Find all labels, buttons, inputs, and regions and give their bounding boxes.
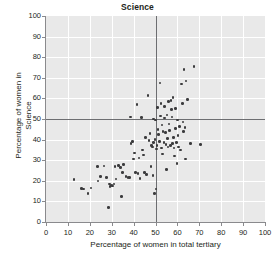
data-point bbox=[165, 168, 168, 171]
data-point bbox=[163, 105, 166, 108]
data-point bbox=[160, 147, 163, 150]
data-point bbox=[174, 107, 177, 110]
data-point bbox=[174, 127, 177, 130]
chart-title: Science bbox=[0, 2, 275, 12]
x-tick-label: 100 bbox=[253, 228, 275, 237]
data-point bbox=[184, 126, 187, 129]
data-point bbox=[153, 192, 156, 195]
data-point bbox=[151, 146, 154, 149]
data-point bbox=[168, 123, 171, 126]
data-point bbox=[140, 116, 143, 119]
data-point bbox=[178, 125, 181, 128]
data-point bbox=[121, 171, 124, 174]
data-point bbox=[163, 117, 166, 120]
data-point bbox=[122, 163, 125, 166]
data-point bbox=[114, 165, 117, 168]
data-point bbox=[96, 165, 99, 168]
data-point bbox=[180, 83, 183, 86]
data-point bbox=[183, 68, 186, 71]
data-point bbox=[185, 80, 188, 83]
y-axis-title-line1: Percentage of women in bbox=[14, 72, 23, 158]
data-point bbox=[148, 139, 151, 142]
data-point bbox=[155, 188, 158, 191]
data-point bbox=[142, 154, 145, 157]
data-point bbox=[152, 141, 155, 144]
plot-area bbox=[46, 16, 265, 222]
data-point bbox=[129, 116, 132, 119]
data-point bbox=[170, 108, 173, 111]
y-tick-mark bbox=[42, 37, 45, 38]
x-tick-mark bbox=[243, 223, 244, 226]
data-point bbox=[182, 130, 185, 133]
x-tick-mark bbox=[156, 223, 157, 226]
x-tick-label: 40 bbox=[122, 228, 146, 237]
data-point bbox=[136, 103, 139, 106]
data-point bbox=[155, 148, 158, 151]
x-tick-label: 80 bbox=[209, 228, 233, 237]
scatter-plot-figure: Science 0102030405060708090100 010203040… bbox=[0, 0, 275, 276]
data-point bbox=[149, 132, 152, 135]
data-point bbox=[181, 102, 184, 105]
y-tick-mark bbox=[42, 222, 45, 223]
data-point bbox=[103, 165, 106, 168]
data-point bbox=[99, 175, 102, 178]
data-point bbox=[186, 98, 189, 101]
data-point bbox=[177, 134, 180, 137]
data-point bbox=[144, 136, 147, 139]
data-point bbox=[168, 129, 171, 132]
y-tick-label: 100 bbox=[19, 12, 41, 20]
x-tick-mark bbox=[68, 223, 69, 226]
y-tick-mark bbox=[42, 98, 45, 99]
data-point bbox=[164, 131, 167, 134]
y-tick-mark bbox=[42, 119, 45, 120]
data-point bbox=[90, 187, 93, 190]
data-point bbox=[111, 185, 114, 188]
y-tick-mark bbox=[42, 201, 45, 202]
data-point bbox=[138, 157, 141, 160]
data-point bbox=[172, 136, 175, 139]
x-tick-mark bbox=[134, 223, 135, 226]
y-tick-mark bbox=[42, 57, 45, 58]
data-point bbox=[161, 153, 164, 156]
data-point bbox=[137, 172, 140, 175]
data-point bbox=[166, 137, 169, 140]
data-point bbox=[119, 166, 122, 169]
data-point bbox=[145, 173, 148, 176]
data-point bbox=[160, 102, 163, 105]
x-tick-label: 90 bbox=[231, 228, 255, 237]
data-point bbox=[170, 99, 173, 102]
data-point bbox=[176, 162, 179, 165]
y-tick-mark bbox=[42, 181, 45, 182]
y-axis-title: Percentage of women in Science bbox=[14, 46, 33, 186]
data-point bbox=[189, 142, 192, 145]
x-tick-mark bbox=[112, 223, 113, 226]
x-tick-label: 0 bbox=[34, 228, 58, 237]
data-point bbox=[193, 65, 196, 68]
x-tick-label: 20 bbox=[78, 228, 102, 237]
x-tick-label: 70 bbox=[187, 228, 211, 237]
data-point bbox=[171, 116, 174, 119]
x-tick-label: 10 bbox=[56, 228, 80, 237]
data-point bbox=[172, 96, 175, 99]
data-point bbox=[150, 165, 153, 168]
data-point bbox=[156, 106, 159, 109]
y-tick-label: 90 bbox=[19, 33, 41, 41]
x-tick-mark bbox=[199, 223, 200, 226]
x-tick-mark bbox=[265, 223, 266, 226]
data-point bbox=[179, 149, 182, 152]
data-point bbox=[177, 146, 180, 149]
data-point bbox=[156, 144, 159, 147]
data-point bbox=[158, 140, 161, 143]
data-point bbox=[105, 176, 108, 179]
y-axis-title-line2: Science bbox=[23, 101, 32, 129]
data-point bbox=[173, 155, 176, 158]
data-point bbox=[166, 114, 169, 117]
data-point bbox=[171, 142, 174, 145]
y-tick-mark bbox=[42, 16, 45, 17]
data-point bbox=[159, 82, 162, 85]
x-tick-label: 50 bbox=[144, 228, 168, 237]
y-tick-mark bbox=[42, 160, 45, 161]
x-tick-mark bbox=[46, 223, 47, 226]
x-axis-title: Percentage of women in total tertiary bbox=[46, 240, 265, 249]
x-tick-mark bbox=[221, 223, 222, 226]
